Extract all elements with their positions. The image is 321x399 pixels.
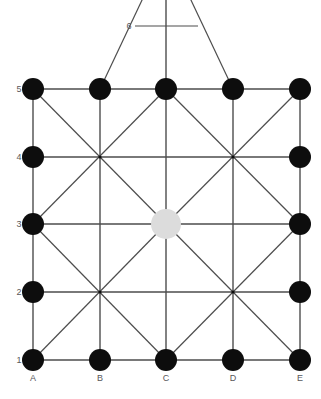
node-a1[interactable]: [22, 349, 44, 371]
row-label-3: 3: [16, 219, 21, 229]
node-c1[interactable]: [155, 349, 177, 371]
highlight-group: [151, 209, 181, 239]
node-a5[interactable]: [22, 78, 44, 100]
node-e5[interactable]: [289, 78, 311, 100]
node-d5[interactable]: [222, 78, 244, 100]
node-b1[interactable]: [89, 349, 111, 371]
node-c5[interactable]: [155, 78, 177, 100]
board-canvas: 5 4 3 2 1 6 A B C D E: [0, 0, 321, 399]
node-c3-highlight[interactable]: [151, 209, 181, 239]
junction-point: [98, 290, 101, 293]
column-label-b: B: [97, 373, 103, 383]
game-board: 5 4 3 2 1 6 A B C D E: [0, 0, 321, 399]
row-label-1: 1: [16, 355, 21, 365]
column-label-group: A B C D E: [30, 373, 303, 383]
node-e1[interactable]: [289, 349, 311, 371]
edge-group-vertical: [33, 0, 300, 360]
column-label-e: E: [297, 373, 303, 383]
column-label-d: D: [230, 373, 237, 383]
row-label-6: 6: [126, 21, 131, 31]
row-label-5: 5: [16, 84, 21, 94]
edge-apex-left: [100, 0, 143, 89]
node-e4[interactable]: [289, 146, 311, 168]
node-e2[interactable]: [289, 281, 311, 303]
junction-point: [231, 155, 234, 158]
junction-point: [98, 155, 101, 158]
junction-point: [231, 290, 234, 293]
node-a4[interactable]: [22, 146, 44, 168]
node-d1[interactable]: [222, 349, 244, 371]
row-label-2: 2: [16, 287, 21, 297]
row-label-4: 4: [16, 152, 21, 162]
column-label-c: C: [163, 373, 170, 383]
node-e3[interactable]: [289, 213, 311, 235]
node-b5[interactable]: [89, 78, 111, 100]
row-label-group: 5 4 3 2 1 6: [16, 21, 131, 365]
column-label-a: A: [30, 373, 36, 383]
edge-apex-right: [190, 0, 233, 89]
node-a3[interactable]: [22, 213, 44, 235]
node-a2[interactable]: [22, 281, 44, 303]
